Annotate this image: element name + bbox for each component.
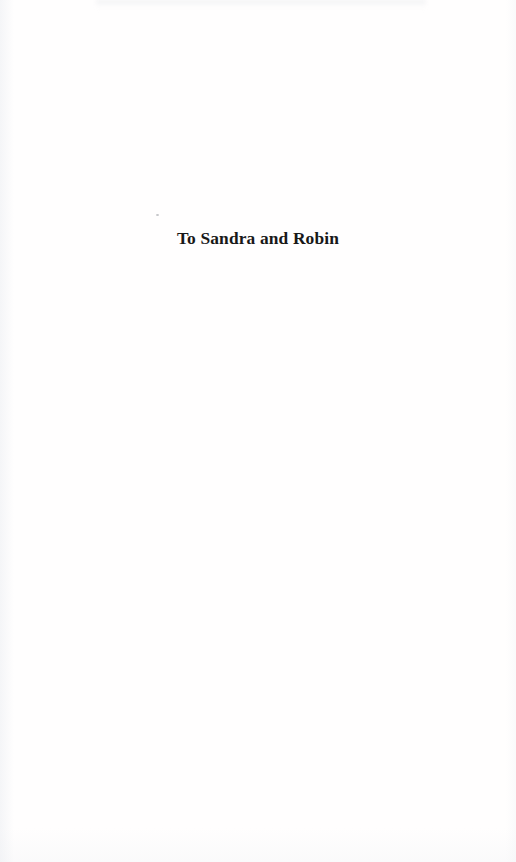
scan-smudge-top-edge bbox=[96, 0, 426, 9]
scan-speck-artifact bbox=[156, 214, 159, 216]
scanned-page: To Sandra and Robin bbox=[0, 0, 516, 862]
dedication-block: To Sandra and Robin bbox=[0, 228, 516, 248]
dedication-text: To Sandra and Robin bbox=[177, 228, 339, 248]
paper-tone-overlay bbox=[0, 0, 516, 862]
